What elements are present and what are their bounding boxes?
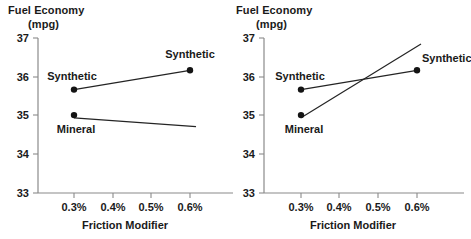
data-point-synthetic-0 <box>71 86 77 92</box>
x-tick-label-1: 0.4% <box>100 201 125 213</box>
plot-area-right: 37 36 35 34 33 0.3% 0.4% 0.5% 0.6% <box>228 0 471 215</box>
x-tick-label-3-right: 0.6% <box>404 201 429 213</box>
y-tick-marks <box>33 38 38 193</box>
x-tick-marks <box>74 193 190 198</box>
y-tick-label-37-right: 37 <box>243 32 255 44</box>
x-tick-label-2: 0.5% <box>138 201 163 213</box>
data-point-synthetic-1-right <box>414 67 420 73</box>
x-tick-label-0: 0.3% <box>61 201 86 213</box>
x-axis-title-left: Friction Modifier <box>0 219 236 231</box>
y-tick-label-35-right: 35 <box>243 109 255 121</box>
x-tick-labels-right: 0.3% 0.4% 0.5% 0.6% <box>288 201 429 213</box>
chart-panel-right: Fuel Economy (mpg) 37 36 35 34 33 <box>228 0 464 239</box>
x-tick-label-0-right: 0.3% <box>288 201 313 213</box>
y-tick-marks-right <box>259 38 264 193</box>
y-tick-label-36: 36 <box>17 71 29 83</box>
y-tick-label-34: 34 <box>17 148 30 160</box>
y-tick-label-33: 33 <box>17 187 29 199</box>
series-annotation-synthetic-right: Synthetic <box>165 48 215 60</box>
x-tick-marks-right <box>301 193 417 198</box>
data-point-mineral-0-right <box>298 112 304 118</box>
chart-figure: Fuel Economy (mpg) 37 36 35 34 33 <box>0 0 471 239</box>
plot-area-left: 37 36 35 34 33 0.3% 0.4% 0.5% 0.6% <box>0 0 236 215</box>
y-tick-label-35: 35 <box>17 109 29 121</box>
x-tick-labels: 0.3% 0.4% 0.5% 0.6% <box>61 201 202 213</box>
y-tick-label-37: 37 <box>17 32 29 44</box>
y-tick-labels-right: 37 36 35 34 33 <box>243 32 256 199</box>
y-tick-label-34-right: 34 <box>243 148 256 160</box>
x-tick-label-2-right: 0.5% <box>365 201 390 213</box>
data-point-mineral-0 <box>71 112 77 118</box>
y-tick-label-33-right: 33 <box>243 187 255 199</box>
x-tick-label-3: 0.6% <box>177 201 202 213</box>
x-axis-title-right-text: Friction Modifier <box>310 219 396 231</box>
series-annotation-mineral-right: Mineral <box>285 123 324 135</box>
series-annotation-synthetic-left: Synthetic <box>47 70 97 82</box>
series-annotation-synthetic-right-right: Synthetic <box>422 52 471 64</box>
y-tick-labels: 37 36 35 34 33 <box>17 32 30 199</box>
chart-panel-left: Fuel Economy (mpg) 37 36 35 34 33 <box>0 0 236 239</box>
data-point-synthetic-0-right <box>298 86 304 92</box>
x-axis-title-left-text: Friction Modifier <box>82 219 168 231</box>
data-point-synthetic-1 <box>187 67 193 73</box>
series-annotation-mineral: Mineral <box>57 123 96 135</box>
series-annotation-synthetic-left-right: Synthetic <box>275 70 325 82</box>
x-axis-title-right: Friction Modifier <box>228 219 464 231</box>
y-tick-label-36-right: 36 <box>243 71 255 83</box>
x-tick-label-1-right: 0.4% <box>326 201 351 213</box>
